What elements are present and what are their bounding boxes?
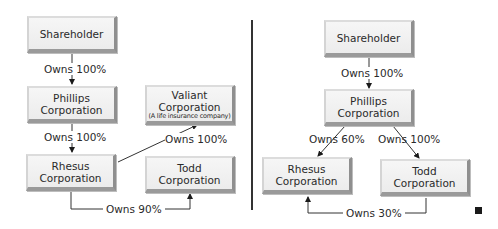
end-of-figure-marker [475, 207, 482, 214]
box-title: Rhesus [51, 160, 89, 172]
box-subtitle: Corporation [337, 107, 399, 119]
left-todd-box: Todd Corporation [145, 156, 235, 193]
left-phillips-box: Phillips Corporation [27, 86, 117, 123]
right-edge-shareholder-phillips: Owns 100% [341, 67, 403, 79]
box-title: Shareholder [40, 28, 104, 40]
left-rhesus-box: Rhesus Corporation [26, 154, 116, 191]
box-title: Rhesus [287, 163, 325, 175]
left-valiant-box: Valiant Corporation (A life insurance co… [145, 85, 235, 125]
box-subtitle: Corporation [275, 175, 337, 187]
left-edge-phillips-rhesus: Owns 100% [44, 131, 106, 143]
box-note: (A life insurance company) [148, 113, 230, 120]
box-title: Todd [177, 162, 201, 174]
box-title: Todd [412, 165, 436, 177]
right-edge-phillips-todd: Owns 100% [378, 133, 440, 145]
left-edge-shareholder-phillips: Owns 100% [44, 63, 106, 75]
left-shareholder-box: Shareholder [27, 16, 117, 53]
right-phillips-box: Phillips Corporation [324, 89, 414, 126]
box-subtitle: Corporation [158, 101, 220, 113]
left-edge-rhesus-todd: Owns 90% [103, 203, 165, 215]
right-edge-todd-rhesus: Owns 30% [343, 207, 405, 219]
right-rhesus-box: Rhesus Corporation [262, 157, 352, 194]
right-todd-box: Todd Corporation [380, 159, 470, 196]
right-shareholder-box: Shareholder [324, 20, 414, 57]
box-title: Valiant [172, 89, 208, 101]
box-title: Phillips [53, 92, 90, 104]
box-title: Phillips [350, 95, 387, 107]
box-subtitle: Corporation [40, 104, 102, 116]
right-edge-phillips-rhesus: Owns 60% [309, 133, 365, 145]
left-edge-rhesus-valiant: Owns 100% [165, 133, 227, 145]
box-subtitle: Corporation [393, 177, 455, 189]
diagram-divider [251, 20, 253, 210]
box-subtitle: Corporation [158, 174, 220, 186]
box-subtitle: Corporation [39, 172, 101, 184]
box-title: Shareholder [337, 32, 401, 44]
